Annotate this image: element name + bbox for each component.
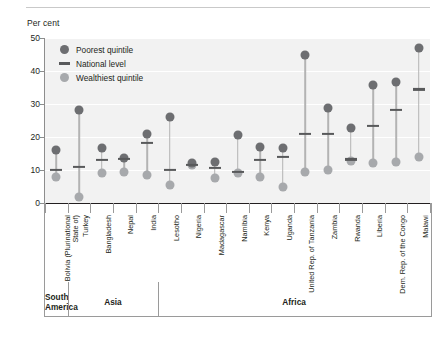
point-wealthiest: [52, 172, 61, 181]
range-stem: [305, 55, 307, 172]
region-label-south-america: SouthAmerica: [45, 292, 68, 312]
x-label-kenya: Kenya: [263, 215, 271, 236]
top-divider: [26, 7, 430, 8]
marker-national-level: [367, 125, 379, 127]
point-poorest: [97, 143, 106, 152]
y-tick-label-10: 10: [18, 165, 40, 175]
marker-national-level: [390, 109, 402, 111]
marker-national-level: [50, 169, 62, 171]
x-label-uganda: Uganda: [286, 215, 294, 241]
y-tick-label-20: 20: [18, 132, 40, 142]
range-stem: [146, 134, 148, 176]
range-stem: [327, 108, 329, 170]
point-wealthiest: [210, 173, 219, 182]
x-label-malawi: Malawi: [422, 215, 430, 238]
range-stem: [418, 48, 420, 157]
point-wealthiest: [256, 173, 265, 182]
point-poorest: [256, 142, 265, 151]
marker-national-level: [345, 158, 357, 160]
marker-national-level: [141, 142, 153, 144]
x-tick: [271, 203, 272, 213]
x-tick: [181, 203, 182, 213]
point-poorest: [74, 105, 83, 114]
legend-marker-national-icon: [58, 62, 70, 64]
legend-label: Poorest quintile: [76, 45, 133, 55]
x-label-namibia: Namibia: [241, 215, 249, 242]
y-tick-label-30: 30: [18, 99, 40, 109]
x-label-united-rep-of-tanzania: United Rep. of Tanzania: [308, 215, 316, 293]
legend-marker-wealthiest-icon: [58, 73, 70, 82]
x-tick: [45, 203, 46, 213]
x-tick: [158, 203, 159, 213]
x-tick: [317, 203, 318, 213]
point-wealthiest: [97, 169, 106, 178]
range-stem: [282, 148, 284, 186]
x-tick: [294, 203, 295, 213]
x-label-turkey: Turkey: [82, 215, 90, 237]
point-poorest: [210, 157, 219, 166]
x-label-rwanda: Rwanda: [354, 215, 362, 242]
x-label-zambia: Zambia: [331, 215, 339, 239]
x-tick: [226, 203, 227, 213]
point-poorest: [52, 145, 61, 154]
point-wealthiest: [142, 171, 151, 180]
marker-national-level: [209, 167, 221, 169]
range-stem: [237, 135, 239, 173]
y-tick-30: [40, 104, 44, 105]
marker-national-level: [73, 166, 85, 168]
x-label-dem-rep-of-the-congo: Dem. Rep. of the Congo: [399, 215, 407, 294]
point-poorest: [324, 103, 333, 112]
range-stem: [169, 117, 171, 185]
y-tick-10: [40, 170, 44, 171]
point-poorest: [346, 123, 355, 132]
legend: Poorest quintileNational levelWealthiest…: [58, 43, 143, 85]
region-label-asia: Asia: [68, 297, 159, 307]
point-wealthiest: [120, 167, 129, 176]
x-tick: [249, 203, 250, 213]
marker-national-level: [322, 133, 334, 135]
x-tick: [339, 203, 340, 213]
point-wealthiest: [165, 181, 174, 190]
marker-national-level: [254, 159, 266, 161]
x-label-nepal: Nepal: [127, 215, 135, 234]
region-label-africa: Africa: [158, 297, 430, 307]
marker-national-level: [186, 164, 198, 166]
legend-item-national: National level: [58, 57, 143, 70]
x-label-india: India: [150, 215, 158, 231]
x-tick: [385, 203, 386, 213]
y-axis-title: Per cent: [27, 18, 59, 28]
point-poorest: [142, 129, 151, 138]
marker-national-level: [277, 156, 289, 158]
marker-national-level: [164, 169, 176, 171]
x-tick: [204, 203, 205, 213]
y-tick-20: [40, 137, 44, 138]
marker-national-level: [232, 171, 244, 173]
x-label-liberia: Liberia: [376, 215, 384, 237]
marker-national-level: [413, 88, 425, 90]
y-tick-label-0: 0: [18, 198, 40, 208]
point-wealthiest: [392, 158, 401, 167]
point-poorest: [369, 80, 378, 89]
x-label-bolivia-plurinational-state-of: Bolivia (PlurinationalState of): [64, 215, 79, 281]
y-tick-40: [40, 71, 44, 72]
point-poorest: [301, 50, 310, 59]
x-tick: [68, 203, 69, 213]
legend-item-wealthiest: Wealthiest quintile: [58, 71, 143, 84]
x-label-nigeria: Nigeria: [195, 215, 203, 238]
point-poorest: [414, 43, 423, 52]
point-poorest: [233, 131, 242, 140]
x-tick: [430, 203, 431, 213]
x-tick: [136, 203, 137, 213]
point-poorest: [392, 77, 401, 86]
x-tick: [362, 203, 363, 213]
point-poorest: [278, 144, 287, 153]
point-wealthiest: [324, 166, 333, 175]
x-tick: [90, 203, 91, 213]
point-wealthiest: [301, 167, 310, 176]
x-label-lesotho: Lesotho: [173, 215, 181, 241]
legend-label: Wealthiest quintile: [76, 73, 143, 83]
legend-label: National level: [76, 59, 126, 69]
marker-national-level: [299, 133, 311, 135]
legend-item-poorest: Poorest quintile: [58, 43, 143, 56]
range-stem: [78, 110, 80, 197]
